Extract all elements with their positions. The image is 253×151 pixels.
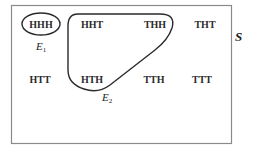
- outcome-tth: TTH: [143, 74, 164, 85]
- outcome-ttt: TTT: [192, 74, 212, 85]
- outcome-htt: HTT: [29, 74, 50, 85]
- outcome-hth: HTH: [81, 74, 103, 85]
- venn-diagram: HHH HHT THH THT HTT HTH TTH TTT E1 E2 S: [0, 0, 253, 151]
- outcome-hhh: HHH: [29, 19, 53, 30]
- outcome-hht: HHT: [81, 19, 104, 30]
- outcome-tht: THT: [194, 19, 215, 30]
- sample-space-label: S: [235, 29, 242, 44]
- outcome-thh: THH: [144, 19, 166, 30]
- event-e1-label: E1: [35, 40, 47, 54]
- event-e2-label: E2: [101, 91, 113, 105]
